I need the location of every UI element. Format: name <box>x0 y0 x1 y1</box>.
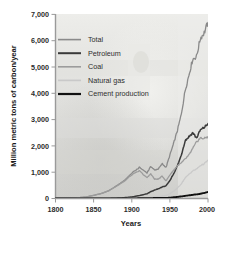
ytick-label: 4,000 <box>31 89 49 98</box>
ytick-label: 0 <box>45 194 49 203</box>
xtick-label: 1850 <box>86 205 102 214</box>
y-axis-title: Million metric tons of carbon/year <box>9 45 18 167</box>
emissions-line-chart: 0 1,000 2,000 3,000 4,000 5,000 6,000 7,… <box>0 0 225 255</box>
ytick-label: 2,000 <box>31 142 49 151</box>
chart-figure: 0 1,000 2,000 3,000 4,000 5,000 6,000 7,… <box>0 0 225 255</box>
ytick-label: 6,000 <box>31 36 49 45</box>
ytick-label: 7,000 <box>31 10 49 19</box>
legend-label: Coal <box>88 62 103 71</box>
legend-label: Cement production <box>88 89 149 98</box>
xtick-label: 2000 <box>199 205 215 214</box>
ytick-label: 3,000 <box>31 115 49 124</box>
xtick-label: 1900 <box>124 205 140 214</box>
ytick-label: 5,000 <box>31 63 49 72</box>
xtick-label: 1800 <box>48 205 64 214</box>
ytick-label: 1,000 <box>31 168 49 177</box>
legend-label: Petroleum <box>88 49 121 58</box>
xtick-label: 1950 <box>162 205 178 214</box>
legend-label: Natural gas <box>88 76 125 85</box>
legend-label: Total <box>88 35 104 44</box>
plot-background <box>55 14 208 198</box>
x-axis-title: Years <box>121 219 141 228</box>
